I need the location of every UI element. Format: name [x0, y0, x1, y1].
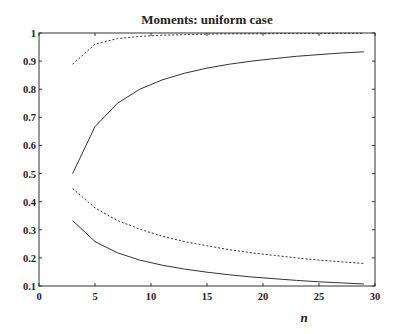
y-tick-label: 0.3 — [23, 225, 36, 236]
moments-chart: Moments: uniform case 0510152025300.10.2… — [0, 0, 397, 334]
chart-title: Moments: uniform case — [141, 12, 273, 27]
series-upper-dashed — [73, 33, 364, 64]
series-lower-solid — [73, 221, 364, 285]
series-upper-solid — [73, 52, 364, 174]
y-tick-label: 0.8 — [23, 84, 36, 95]
x-tick-label: 20 — [258, 291, 269, 302]
x-tick-label: 30 — [370, 291, 381, 302]
x-tick-label: 15 — [202, 291, 213, 302]
x-tick-label: 0 — [36, 291, 41, 302]
y-tick-label: 0.6 — [23, 140, 36, 151]
y-tick-label: 0.2 — [23, 253, 36, 264]
y-tick-label: 1 — [31, 28, 36, 39]
y-tick-label: 0.4 — [23, 197, 37, 208]
x-tick-label: 5 — [92, 291, 97, 302]
x-tick-label: 10 — [146, 291, 157, 302]
y-tick-label: 0.9 — [23, 56, 36, 67]
x-tick-label: 25 — [314, 291, 325, 302]
plot-frame — [39, 33, 375, 286]
y-tick-label: 0.7 — [23, 112, 36, 123]
data-series — [73, 33, 364, 284]
y-tick-label: 0.1 — [23, 281, 36, 292]
y-tick-label: 0.5 — [23, 169, 36, 180]
x-axis-label: n — [300, 310, 307, 325]
